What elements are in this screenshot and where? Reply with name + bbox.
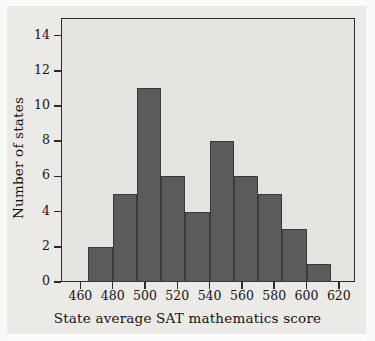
- histogram-bar: [210, 141, 234, 282]
- histogram-bar: [234, 176, 258, 282]
- x-axis-title: State average SAT mathematics score: [0, 310, 375, 326]
- y-axis-tick: [54, 70, 61, 72]
- page-edge-right: [366, 0, 375, 341]
- y-axis-tick: [54, 176, 61, 178]
- page-edge-left: [0, 0, 7, 341]
- histogram-bar: [307, 264, 331, 282]
- plot-area: [61, 18, 355, 282]
- y-axis-tick: [54, 281, 61, 283]
- y-axis-tick: [54, 246, 61, 248]
- y-axis-tick-label: 0: [10, 275, 50, 288]
- histogram-bar: [185, 212, 209, 282]
- y-axis-tick: [54, 35, 61, 37]
- page-edge-top: [0, 0, 375, 6]
- y-axis-title: Number of states: [10, 58, 26, 258]
- y-axis-tick: [54, 211, 61, 213]
- histogram-bar: [88, 247, 112, 282]
- histogram-bar: [113, 194, 137, 282]
- histogram-bar: [161, 176, 185, 282]
- y-axis-tick-label: 14: [10, 29, 50, 42]
- histogram-bar: [137, 88, 161, 282]
- y-axis-tick: [54, 140, 61, 142]
- histogram-bar: [258, 194, 282, 282]
- x-axis-tick-label: 620: [317, 290, 361, 303]
- page-edge-bottom: [0, 334, 375, 341]
- y-axis-tick: [54, 105, 61, 107]
- histogram-figure: 02468101214 460480500520540560580600620 …: [0, 0, 375, 341]
- histogram-bar: [282, 229, 306, 282]
